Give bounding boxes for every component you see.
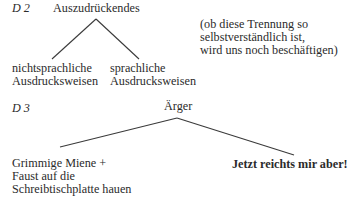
root-node: Ärger [164,100,192,113]
diagram-id-label: D 2 [12,2,30,15]
d2-right-branch [96,19,139,59]
d3-left-branch [60,118,177,147]
d3-right-branch [177,118,294,155]
child-node-line: Ausdrucksweisen [110,75,196,88]
root-node: Auszudrückendes [53,2,140,15]
d2-left-branch [52,19,96,59]
note-line: wird uns noch beschäftigen) [200,44,338,57]
child-node-line: Schreibtischplatte hauen [12,183,131,196]
child-node-line: Ausdrucksweisen [12,75,98,88]
child-node-line: Jetzt reichts mir aber! [232,158,348,171]
diagram-id-label: D 3 [12,102,30,115]
